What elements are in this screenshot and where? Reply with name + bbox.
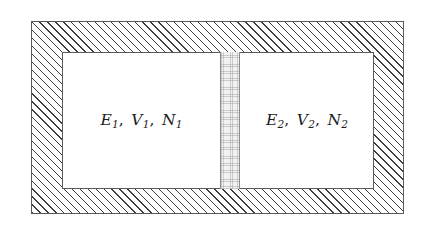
central-partition — [220, 52, 240, 189]
figure-canvas: E1, V1, N1 E2, V2, N2 — [0, 0, 433, 235]
inner-cavity — [62, 52, 374, 189]
